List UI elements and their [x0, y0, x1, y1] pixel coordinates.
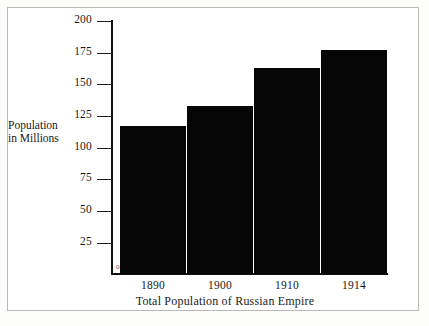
y-tick-mark-25: [97, 243, 112, 244]
chart-screenshot: 200 175 150 125 100 75 50 25: [0, 0, 429, 326]
x-tick-label-1900: 1900: [187, 279, 253, 291]
y-tick-label-150: 150: [52, 76, 92, 88]
x-tick-label-1890: 1890: [120, 279, 186, 291]
y-tick-mark-200: [97, 21, 112, 22]
y-tick-mark-75: [97, 179, 112, 180]
bar-1890[interactable]: [120, 126, 186, 274]
y-tick-label-50: 50: [52, 203, 92, 215]
y-tick-label-75: 75: [52, 171, 92, 183]
y-tick-mark-100: [97, 148, 112, 149]
x-axis-title: Total Population of Russian Empire: [60, 294, 390, 309]
y-tick-mark-50: [97, 211, 112, 212]
bar-1900[interactable]: [187, 106, 253, 274]
y-axis-title: Population in Millions: [8, 119, 90, 145]
y-axis-title-line1: Population: [8, 119, 90, 132]
origin-zero-marker: 0: [116, 264, 120, 271]
y-axis-title-line2: in Millions: [8, 132, 90, 145]
y-tick-label-25: 25: [52, 235, 92, 247]
y-tick-mark-175: [97, 53, 112, 54]
y-tick-mark-150: [97, 84, 112, 85]
y-tick-mark-125: [97, 116, 112, 117]
x-tick-label-1914: 1914: [321, 279, 387, 291]
x-tick-label-1910: 1910: [254, 279, 320, 291]
y-tick-label-175: 175: [52, 45, 92, 57]
y-tick-label-200: 200: [52, 13, 92, 25]
bar-chart-plot: 200 175 150 125 100 75 50 25: [0, 0, 429, 326]
bar-1910[interactable]: [254, 68, 320, 274]
bar-1914[interactable]: [321, 50, 387, 274]
